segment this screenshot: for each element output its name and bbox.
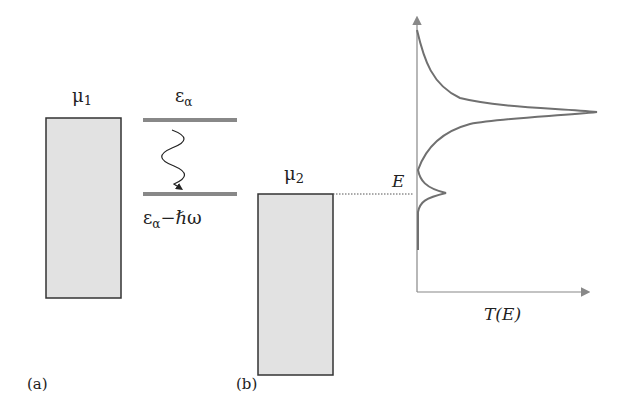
diagram-canvas: μ1 εα εα−ℏω (a) μ2 E (b) T(E) [0, 0, 629, 417]
energy-label: E [391, 171, 405, 191]
mu1-label: μ1 [72, 85, 92, 108]
reservoir-1-box [46, 118, 121, 298]
reservoir-2-box [258, 194, 333, 375]
panel-b: μ2 E (b) T(E) [236, 18, 597, 393]
transmission-curve [417, 30, 597, 250]
panel-a: μ1 εα εα−ℏω (a) [27, 85, 237, 393]
panel-a-label: (a) [27, 375, 48, 393]
lower-level-label: εα−ℏω [143, 207, 202, 231]
panel-b-label: (b) [236, 375, 257, 393]
x-axis-label: T(E) [484, 304, 521, 324]
upper-level-label: εα [175, 85, 192, 109]
mu2-label: μ2 [284, 163, 304, 186]
photon-wavy-arrow-icon [162, 130, 185, 188]
